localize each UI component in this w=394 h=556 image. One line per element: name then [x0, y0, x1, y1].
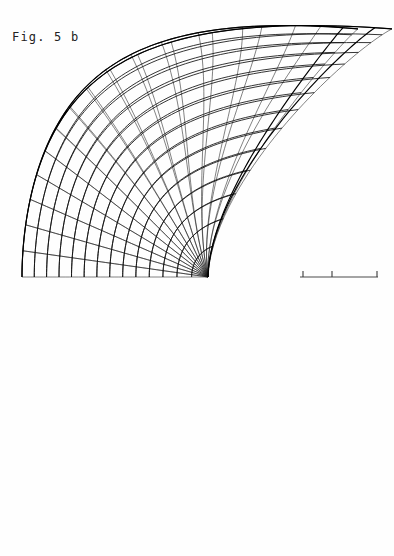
figure-root: Fig. 5 b: [0, 0, 394, 556]
fold-edge-curve: [208, 28, 375, 277]
mesh-u-curve: [207, 27, 243, 277]
mesh-u-curve: [37, 175, 208, 277]
wireframe-surface-plot: [0, 0, 394, 556]
mesh-u-curve: [26, 225, 208, 277]
mesh-u-curve: [30, 199, 208, 277]
horizontal-axis: [300, 271, 378, 277]
mesh-u-curve: [208, 29, 358, 277]
axis-tick-marks: [303, 271, 377, 277]
mesh-u-curve: [208, 26, 321, 277]
mesh-u-curve: [23, 251, 208, 277]
mesh-v-curve: [136, 148, 266, 277]
mesh-u-curves: [22, 26, 392, 277]
mesh-v-curve: [163, 194, 236, 277]
